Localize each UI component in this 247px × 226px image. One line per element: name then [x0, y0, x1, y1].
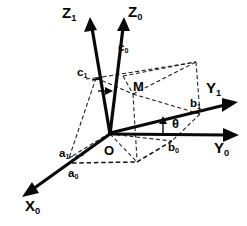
diagram-canvas	[0, 0, 247, 226]
point-label-m: M	[133, 80, 144, 93]
construct-c0-top-to-corner	[123, 62, 196, 76]
coordinate-system-diagram: Z1 Z0 Y1 Y0 X0 c0 c1 b1 b0 a1 a0 O M θ	[0, 0, 247, 226]
point-label-origin: O	[104, 144, 114, 157]
construct-base-a0-to-foot	[72, 162, 137, 163]
construct-base-foot-to-b0	[137, 141, 172, 162]
axis-line-y1	[110, 105, 225, 133]
axes-group	[22, 17, 239, 197]
axis-label-x0: X0	[25, 198, 40, 213]
axis-label-z0: Z0	[128, 4, 142, 19]
axis-label-y0: Y0	[214, 140, 229, 155]
c1-tick	[92, 79, 100, 80]
axis-line-y0	[110, 134, 226, 135]
component-label-c1: c1	[77, 67, 87, 79]
axis-arrowhead-y1	[222, 98, 238, 112]
component-label-a1: a1	[59, 148, 69, 160]
axis-label-z1: Z1	[62, 5, 76, 20]
axis-label-y1: Y1	[206, 80, 221, 95]
component-label-a0: a0	[68, 168, 78, 180]
component-label-b0: b0	[168, 142, 179, 154]
z-angle-arrowhead	[105, 87, 113, 95]
component-label-b1: b1	[190, 98, 201, 110]
axis-arrowhead-x0	[22, 182, 39, 197]
axis-arrowhead-z1	[84, 17, 97, 32]
component-label-c0: c0	[118, 42, 128, 54]
axis-line-x0	[33, 134, 110, 189]
angle-label-theta: θ	[172, 117, 179, 130]
